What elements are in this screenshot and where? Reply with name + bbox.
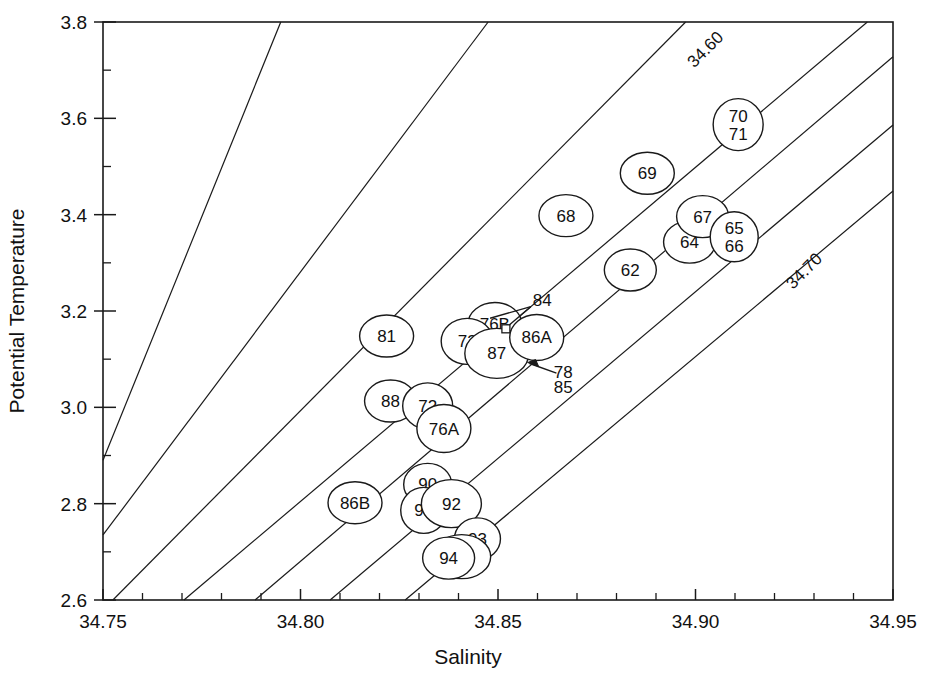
station-bubble[interactable]: 69 xyxy=(620,152,674,194)
x-tick-label: 34.90 xyxy=(672,611,720,632)
station-bubble[interactable]: 6566 xyxy=(710,212,758,262)
station-bubble[interactable]: 81 xyxy=(360,315,414,357)
y-axis-title: Potential Temperature xyxy=(5,208,28,413)
y-tick-label: 2.6 xyxy=(61,590,87,611)
y-tick-label: 3.0 xyxy=(61,397,87,418)
station-bubble[interactable]: 94 xyxy=(423,537,475,579)
station-bubble[interactable]: 68 xyxy=(539,195,593,237)
bubble-label: 67 xyxy=(693,208,712,227)
annotation-label: 84 xyxy=(533,291,552,310)
annotation-85: 85 xyxy=(554,378,573,397)
bubble-label: 92 xyxy=(442,495,461,514)
station-bubble[interactable]: 76A xyxy=(417,405,471,453)
x-tick-label: 34.80 xyxy=(277,611,325,632)
station-bubble[interactable]: 7071 xyxy=(713,99,763,151)
bubble-label: 88 xyxy=(381,392,400,411)
y-tick-label: 3.4 xyxy=(61,205,88,226)
x-axis-title: Salinity xyxy=(434,645,502,668)
station-bubble[interactable]: 86B xyxy=(328,482,382,524)
y-tick-label: 2.8 xyxy=(61,494,87,515)
station-bubble[interactable]: 62 xyxy=(604,249,656,291)
bubble-label: 69 xyxy=(638,164,657,183)
bubble-label: 68 xyxy=(556,207,575,226)
bubble-label: 86B xyxy=(340,494,370,513)
y-tick-label: 3.6 xyxy=(61,108,87,129)
x-tick-label: 34.85 xyxy=(474,611,522,632)
bubble-label: 81 xyxy=(377,327,396,346)
annotation-square-marker xyxy=(502,325,510,333)
y-tick-label: 3.8 xyxy=(61,12,87,33)
bubble-label: 94 xyxy=(439,549,458,568)
bubble-label: 7071 xyxy=(729,107,748,144)
potential-temperature-salinity-plot: 34.7534.8034.8534.9034.95 2.62.83.03.23.… xyxy=(0,0,936,680)
bubble-label: 76A xyxy=(429,420,460,439)
annotation-label: 85 xyxy=(554,378,573,397)
y-tick-label: 3.2 xyxy=(61,301,87,322)
bubble-label: 62 xyxy=(621,261,640,280)
bubble-label: 86A xyxy=(522,328,553,347)
station-bubble[interactable]: 86A xyxy=(510,314,564,360)
x-tick-label: 34.75 xyxy=(79,611,127,632)
plot-canvas: 34.7534.8034.8534.9034.95 2.62.83.03.23.… xyxy=(0,0,936,680)
bubble-label: 87 xyxy=(487,344,506,363)
bubble-label: 6566 xyxy=(725,219,744,256)
x-tick-label: 34.95 xyxy=(869,611,917,632)
